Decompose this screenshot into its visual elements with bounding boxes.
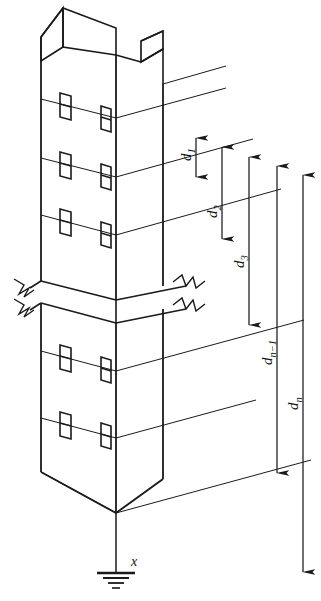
- dimension-label-d2: d2: [204, 205, 223, 219]
- technical-diagram: d1 d2 d3 dn−1 dn x: [0, 0, 321, 601]
- tower-structure: [14, 8, 311, 513]
- tower-shaft-upper: [41, 55, 163, 300]
- dimension-label-dn-1: dn−1: [259, 340, 278, 365]
- dimension-label-d3: d3: [231, 255, 250, 268]
- ground-symbol: [97, 513, 135, 588]
- tower-head: [41, 8, 163, 84]
- diagram-canvas: d1 d2 d3 dn−1 dn x: [0, 0, 321, 601]
- dimension-label-dn: dn: [285, 397, 304, 410]
- dimension-labels: d1 d2 d3 dn−1 dn: [178, 148, 304, 410]
- dimension-label-d1: d1: [178, 148, 197, 161]
- extension-lines: [41, 66, 311, 513]
- dimension-lines: [196, 138, 303, 572]
- attachment-brackets: [60, 93, 111, 449]
- ground-label: x: [130, 554, 138, 569]
